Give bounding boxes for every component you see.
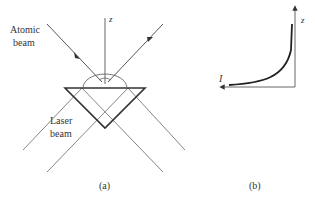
atomic-beam-outgoing <box>108 24 163 82</box>
panel-a: z Atomic beam Laser beam (a) <box>10 14 185 192</box>
figure: z Atomic beam Laser beam (a) z I (b) <box>0 0 315 199</box>
intensity-curve <box>229 24 292 85</box>
intensity-axis-label: I <box>218 73 223 84</box>
laser-beams <box>23 88 185 172</box>
arrow-outgoing-icon <box>147 37 153 42</box>
laser-beam-label: Laser <box>50 115 73 126</box>
caption-b: (b) <box>249 180 261 192</box>
atomic-beam-label-2: beam <box>13 37 35 48</box>
atomic-beam-label: Atomic <box>10 24 41 35</box>
laser-beam-label-2: beam <box>50 128 72 139</box>
z-axis-label-b: z <box>300 15 305 25</box>
z-axis-label: z <box>108 14 113 24</box>
panel-b: z I (b) <box>218 8 305 192</box>
caption-a: (a) <box>99 180 110 192</box>
